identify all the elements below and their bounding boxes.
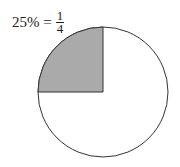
- pie-slice-25-percent: [38, 27, 103, 92]
- pie-chart: [0, 0, 180, 167]
